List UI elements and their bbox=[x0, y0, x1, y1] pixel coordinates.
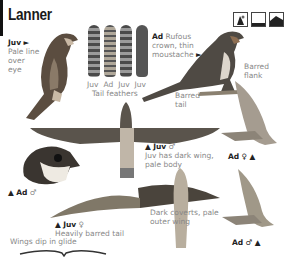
tail-feather-ad bbox=[104, 25, 116, 77]
ad-male-side-flight-illustration bbox=[218, 165, 288, 235]
tail-feather-juv bbox=[88, 25, 100, 77]
tail-feathers-row bbox=[88, 25, 148, 77]
open-country-icon bbox=[251, 12, 266, 27]
tail-feather-age-labels: Juv Ad Juv Juv bbox=[87, 80, 146, 89]
mountain-icon bbox=[269, 12, 284, 27]
tail-feathers-caption: Tail feathers bbox=[92, 89, 138, 98]
ad-male-side-label: Ad ♂ ▲ bbox=[232, 238, 260, 247]
ad-female-side-label: Ad ♀ ▲ bbox=[228, 152, 255, 161]
habitat-icons bbox=[233, 12, 284, 27]
ad-male-head-label: ▲ Ad ♂ bbox=[8, 188, 36, 197]
wings-dip-label: Wings dip in glide bbox=[10, 237, 77, 246]
juv-male-flight-label: ▲ Juv ♂ Juv has dark wing, pale body bbox=[145, 142, 217, 169]
tail-feather-juv bbox=[120, 25, 132, 77]
dark-coverts-label: Dark coverts, pale outer wing bbox=[150, 208, 220, 226]
juv-female-flight-label: ▲ Juv ♀ Heavily barred tail bbox=[55, 220, 145, 238]
desert-rock-icon bbox=[233, 12, 248, 27]
glide-silhouette-icon bbox=[18, 248, 108, 258]
page-title: Lanner bbox=[8, 6, 52, 24]
chapter-edge-bar bbox=[0, 0, 3, 36]
